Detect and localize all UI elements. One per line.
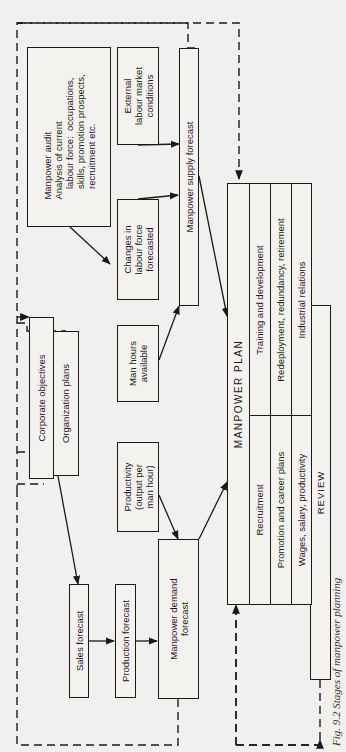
figure-caption: Fig. 9.2 Stages of manpower planning [330,578,342,746]
plan-recruitment: Recruitment [249,416,270,604]
diagram-canvas: Manpower audit Analysis of current labou… [0,0,346,752]
sales-forecast-box: Sales forecast [69,584,89,698]
organization-plans-box: Organization plans [52,331,79,476]
manpower-audit-box: Manpower audit Analysis of current labou… [27,47,111,227]
external-labour-box: External labour market conditions [117,47,159,145]
plan-wages: Wages, salary, productivity [291,416,311,604]
changes-labour-box: Changes in labour force forecasted [117,199,159,300]
corporate-objectives-box: Corporate objectives [29,317,54,479]
manpower-plan-box: MANPOWER PLAN Recruitment Training and d… [227,183,312,605]
plan-row-3: Wages, salary, productivity Industrial r… [291,184,311,604]
production-forecast-box: Production forecast [115,584,136,698]
manpower-plan-title: MANPOWER PLAN [228,184,250,604]
demand-forecast-box: Manpower demand forecast [158,539,199,699]
plan-row-2: Promotion and career plans Redeployment,… [270,184,292,604]
review-box: REVIEW [310,305,331,680]
plan-training: Training and development [249,185,270,416]
plan-row-1: Recruitment Training and development [249,184,271,604]
productivity-box: Productivity (output per man hour) [117,442,159,532]
plan-promotion: Promotion and career plans [270,416,291,604]
supply-forecast-box: Manpower supply forecast [179,48,199,306]
man-hours-box: Man hours available [117,325,159,402]
plan-redeployment: Redeployment, redundancy, retirement [270,185,291,416]
plan-industrial-relations: Industrial relations [291,185,311,416]
